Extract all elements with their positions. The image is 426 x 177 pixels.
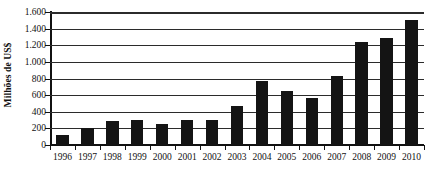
x-tick-mark	[225, 145, 226, 150]
bar-chart: Milhões de US$ 02004006008001.0001.2001.…	[0, 0, 426, 177]
gridline	[50, 29, 424, 30]
x-tick-label: 1998	[103, 152, 122, 162]
y-tick-label: 1.200	[25, 40, 46, 50]
bar	[131, 120, 143, 145]
y-tick-label: 800	[32, 74, 46, 84]
gridline	[50, 95, 424, 96]
gridline	[50, 62, 424, 63]
y-tick-mark	[45, 12, 50, 13]
gridline	[50, 12, 424, 14]
x-tick-label: 2000	[153, 152, 172, 162]
y-axis-title-text: Milhões de US$	[3, 43, 13, 108]
x-tick-mark	[299, 145, 300, 150]
bar	[231, 106, 243, 145]
bar	[355, 42, 367, 145]
gridline	[50, 45, 424, 46]
x-tick-mark	[374, 145, 375, 150]
y-tick-label: 1.000	[25, 57, 46, 67]
x-tick-mark	[175, 145, 176, 150]
x-tick-mark	[50, 145, 51, 150]
x-tick-mark	[75, 145, 76, 150]
x-tick-mark	[100, 145, 101, 150]
bar	[56, 135, 68, 145]
bar	[256, 81, 268, 145]
x-tick-mark	[249, 145, 250, 150]
x-tick-mark	[150, 145, 151, 150]
x-axis-tick-labels: 1996199719981999200020012002200320042005…	[50, 152, 424, 168]
gridline	[50, 79, 424, 80]
x-tick-label: 2010	[402, 152, 421, 162]
bar	[206, 120, 218, 145]
y-tick-label: 1.400	[25, 24, 46, 34]
x-tick-label: 2007	[327, 152, 346, 162]
y-tick-label: 200	[32, 123, 46, 133]
bar	[181, 120, 193, 145]
bar	[380, 38, 392, 145]
x-tick-label: 2001	[178, 152, 197, 162]
y-tick-label: 400	[32, 107, 46, 117]
y-axis-tick-labels: 02004006008001.0001.2001.4001.600	[14, 0, 48, 150]
y-tick-mark	[45, 62, 50, 63]
y-tick-mark	[45, 45, 50, 46]
x-tick-label: 1996	[53, 152, 72, 162]
x-tick-label: 2002	[203, 152, 222, 162]
x-tick-label: 2009	[377, 152, 396, 162]
x-tick-label: 1997	[78, 152, 97, 162]
plot-area	[50, 12, 424, 145]
x-tick-mark	[424, 145, 425, 150]
x-tick-label: 1999	[128, 152, 147, 162]
bar	[81, 128, 93, 145]
bar	[106, 121, 118, 145]
y-tick-mark	[45, 79, 50, 80]
y-tick-label: 600	[32, 90, 46, 100]
x-tick-label: 2004	[252, 152, 271, 162]
bar	[306, 98, 318, 145]
y-tick-mark	[45, 112, 50, 113]
x-tick-mark	[274, 145, 275, 150]
x-tick-mark	[200, 145, 201, 150]
x-tick-label: 2003	[228, 152, 247, 162]
bar	[331, 76, 343, 145]
bar	[156, 124, 168, 145]
x-tick-mark	[399, 145, 400, 150]
bar	[405, 20, 417, 145]
y-tick-mark	[45, 128, 50, 129]
bar	[281, 91, 293, 145]
x-tick-label: 2008	[352, 152, 371, 162]
y-tick-mark	[45, 29, 50, 30]
x-tick-label: 2006	[302, 152, 321, 162]
y-tick-label: 1.600	[25, 7, 46, 17]
x-tick-mark	[324, 145, 325, 150]
y-tick-mark	[45, 95, 50, 96]
x-tick-mark	[349, 145, 350, 150]
x-tick-mark	[125, 145, 126, 150]
x-tick-label: 2005	[277, 152, 296, 162]
